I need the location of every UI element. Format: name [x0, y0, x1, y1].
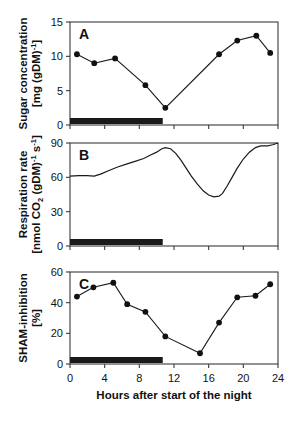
- xtick-label-4: 16: [203, 372, 215, 384]
- data-point-A-4: [162, 105, 168, 111]
- y-axis-label-B: Respiration rate[nmol CO2 (gDM)-1 s-1]: [17, 135, 45, 254]
- data-line-A: [77, 36, 270, 108]
- panel-letter-A: A: [79, 26, 89, 42]
- data-point-A-8: [267, 50, 273, 56]
- y-axis-label-C-line1: [%]: [30, 309, 42, 327]
- y-axis-label-C: SHAM-inhibition[%]: [17, 273, 42, 362]
- data-point-A-6: [234, 38, 240, 44]
- xtick-label-2: 8: [136, 372, 142, 384]
- xtick-label-6: 24: [272, 372, 284, 384]
- night-bar-B: [70, 239, 163, 245]
- data-point-A-3: [143, 82, 149, 88]
- data-point-C-5: [162, 334, 168, 340]
- xtick-label-1: 4: [102, 372, 108, 384]
- panel-A: 051015A: [51, 16, 278, 131]
- ytick-label-A-1: 5: [57, 85, 63, 97]
- y-axis-label-C-line0: SHAM-inhibition: [17, 273, 29, 362]
- data-line-C: [77, 283, 270, 354]
- data-point-C-0: [74, 294, 80, 300]
- night-bar-C: [70, 357, 163, 363]
- y-axis-label-B-line0: Respiration rate: [17, 151, 29, 239]
- y-axis-label-B-line1: [nmol CO2 (gDM)-1 s-1]: [29, 135, 45, 254]
- ytick-label-A-2: 10: [51, 50, 63, 62]
- ytick-label-C-3: 60: [51, 266, 63, 278]
- data-point-C-8: [234, 294, 240, 300]
- ytick-label-B-1: 30: [51, 206, 63, 218]
- ytick-label-C-2: 40: [51, 297, 63, 309]
- y-axis-label-A-line0: Sugar concentration: [17, 18, 29, 130]
- data-point-C-4: [143, 309, 149, 315]
- panel-B: 0306090B: [51, 137, 278, 252]
- panel-frame-A: [70, 22, 278, 125]
- data-point-C-9: [253, 293, 259, 299]
- x-axis-label: Hours after start of the night: [96, 389, 251, 401]
- figure-container: 051015A0306090B0204060C04812162024Hours …: [0, 0, 296, 433]
- data-point-A-2: [112, 55, 118, 61]
- y-axis-label-A-line1: [mg (gDM)-1]: [29, 40, 42, 108]
- ytick-label-A-0: 0: [57, 119, 63, 131]
- data-point-C-2: [110, 280, 116, 286]
- data-line-B: [70, 143, 278, 197]
- ytick-label-C-1: 20: [51, 327, 63, 339]
- ytick-label-B-2: 60: [51, 171, 63, 183]
- x-axis: 04812162024Hours after start of the nigh…: [67, 372, 284, 401]
- multi-panel-figure: 051015A0306090B0204060C04812162024Hours …: [0, 0, 296, 433]
- panel-letter-B: B: [79, 147, 89, 163]
- data-point-C-10: [267, 281, 273, 287]
- ytick-label-C-0: 0: [57, 358, 63, 370]
- ytick-label-B-3: 90: [51, 137, 63, 149]
- ytick-label-A-3: 15: [51, 16, 63, 28]
- panel-C: 0204060C: [51, 266, 278, 370]
- data-point-A-5: [216, 51, 222, 57]
- data-point-C-7: [216, 320, 222, 326]
- data-point-A-0: [74, 51, 80, 57]
- xtick-label-0: 0: [67, 372, 73, 384]
- panel-letter-C: C: [79, 276, 89, 292]
- y-axis-label-A: Sugar concentration[mg (gDM)-1]: [17, 18, 42, 130]
- data-point-A-7: [253, 33, 259, 39]
- xtick-label-5: 20: [237, 372, 249, 384]
- xtick-label-3: 12: [168, 372, 180, 384]
- data-point-A-1: [91, 60, 97, 66]
- night-bar-A: [70, 118, 163, 124]
- data-point-C-1: [91, 284, 97, 290]
- panel-frame-B: [70, 143, 278, 246]
- data-point-C-6: [197, 350, 203, 356]
- data-point-C-3: [124, 301, 130, 307]
- ytick-label-B-0: 0: [57, 240, 63, 252]
